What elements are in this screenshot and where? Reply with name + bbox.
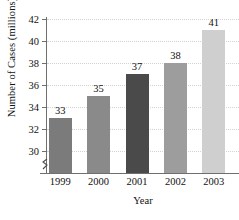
bar-value-label: 41 bbox=[209, 17, 220, 28]
x-axis-line bbox=[40, 173, 239, 174]
y-axis-tick-label: 34 bbox=[29, 102, 40, 113]
y-axis-tick-label: 32 bbox=[29, 124, 40, 135]
x-axis-tick-label: 2003 bbox=[203, 176, 224, 187]
x-axis-tick-label: 2002 bbox=[165, 176, 186, 187]
x-axis-title: Year bbox=[47, 195, 239, 206]
y-axis-tick-label: 30 bbox=[29, 146, 40, 157]
bar: 41 bbox=[202, 30, 225, 173]
bar-value-label: 35 bbox=[93, 83, 104, 94]
bar-value-label: 33 bbox=[55, 105, 66, 116]
y-axis-tick-label: 38 bbox=[29, 58, 40, 69]
y-axis-tick-label: 36 bbox=[29, 80, 40, 91]
y-axis-tick-label: 42 bbox=[29, 14, 40, 25]
bar: 38 bbox=[164, 63, 187, 173]
x-axis-tick-label: 1999 bbox=[50, 176, 71, 187]
bar-chart: Number of Cases (millions) 3032343638404… bbox=[0, 0, 239, 220]
x-axis-tick-label: 2001 bbox=[127, 176, 148, 187]
bar: 33 bbox=[49, 118, 72, 173]
bar: 35 bbox=[87, 96, 110, 173]
x-axis-tick-label: 2000 bbox=[88, 176, 109, 187]
bar-value-label: 37 bbox=[132, 61, 143, 72]
y-axis-tick-label: 40 bbox=[29, 36, 40, 47]
bar: 37 bbox=[126, 74, 149, 173]
bars-layer: 3335373841 bbox=[47, 19, 239, 173]
x-axis-tick-labels: 19992000200120022003 bbox=[47, 176, 239, 192]
y-axis-title: Number of Cases (millions) bbox=[6, 0, 17, 123]
bar-value-label: 38 bbox=[170, 50, 181, 61]
